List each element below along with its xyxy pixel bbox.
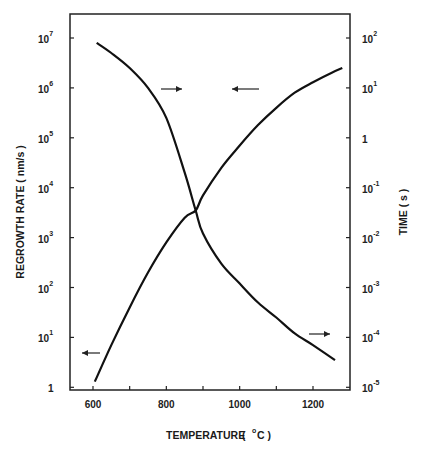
y-tick-label: 101 — [38, 329, 53, 344]
x-tick-label: 1200 — [302, 399, 325, 410]
y-tick-label: 106 — [38, 80, 53, 95]
axis-indicator-arrows — [82, 86, 330, 356]
x-axis-unit-degree: o — [252, 427, 256, 434]
y2-tick-label: 10-2 — [362, 230, 379, 245]
y2-tick-label: 10-1 — [362, 180, 379, 195]
y-tick-label: 103 — [38, 230, 53, 245]
x-axis-unit-open: ( — [242, 429, 246, 441]
y2-tick-label: 102 — [362, 30, 377, 45]
right-y-axis-title: TIME ( s ) — [397, 189, 409, 236]
y2-tick-label: 1 — [362, 134, 368, 145]
left-y-axis-title: REGROWTH RATE ( nm/s ) — [14, 145, 26, 278]
y-tick-label: 1 — [48, 383, 54, 394]
data-series — [95, 43, 342, 382]
y2-tick-label: 101 — [362, 80, 377, 95]
x-tick-label: 1000 — [229, 399, 252, 410]
plot-frame — [70, 14, 350, 390]
y-tick-label: 104 — [38, 180, 53, 195]
left-arrow-icon-head — [232, 86, 238, 92]
right-arrow-icon-head — [324, 331, 330, 337]
right-y-axis-ticks: 10-510-410-310-210-11101102 — [346, 30, 379, 394]
left-y-axis-ticks: 1101102103104105106107 — [38, 30, 74, 394]
regrowth-rate-curve — [95, 68, 342, 382]
y2-tick-label: 10-4 — [362, 329, 379, 344]
y-tick-label: 107 — [38, 30, 53, 45]
y-tick-label: 102 — [38, 280, 53, 295]
right-arrow-icon-head — [176, 86, 182, 92]
x-tick-label: 800 — [158, 399, 175, 410]
y2-tick-label: 10-3 — [362, 280, 379, 295]
y-tick-label: 105 — [38, 130, 53, 145]
chart: 60080010001200 1101102103104105106107 10… — [0, 0, 421, 454]
x-axis-unit: C ) — [257, 429, 271, 441]
y2-tick-label: 10-5 — [362, 379, 379, 394]
x-tick-label: 600 — [85, 399, 102, 410]
left-arrow-icon-head — [82, 350, 88, 356]
x-axis-title: TEMPERATURE — [166, 429, 245, 441]
